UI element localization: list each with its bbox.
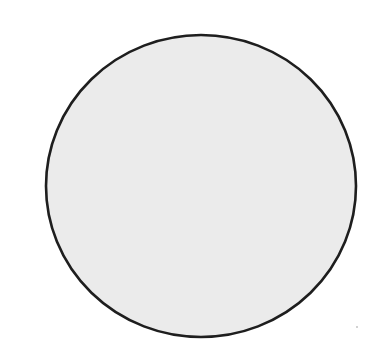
speck-dot — [356, 326, 358, 328]
figure-canvas — [0, 0, 390, 356]
circle-shape — [46, 35, 356, 337]
